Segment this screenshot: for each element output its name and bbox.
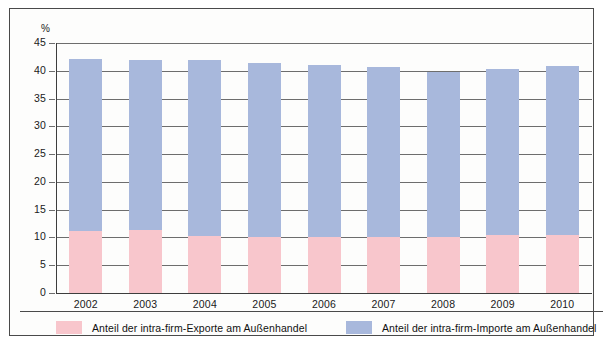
bar-segment-exports-2007 [367,237,400,293]
legend-swatch-imports [346,321,372,334]
x-axis-label-2005: 2005 [234,298,294,310]
bar-2005 [248,63,281,293]
bar-segment-imports-2005 [248,63,281,237]
legend-label-imports: Anteil der intra-firm-Importe am Außenha… [382,322,597,334]
bar-segment-exports-2005 [248,237,281,293]
bar-segment-imports-2010 [546,66,579,235]
y-tick-mark-5 [49,265,55,266]
bar-segment-exports-2002 [69,231,102,293]
bar-segment-exports-2004 [188,236,221,293]
y-tick-mark-15 [49,210,55,211]
bar-segment-imports-2007 [367,67,400,237]
bar-2007 [367,67,400,293]
bar-2003 [129,60,162,293]
y-tick-mark-45 [49,43,55,44]
bar-segment-imports-2002 [69,59,102,231]
y-tick-label-30: 30 [16,119,46,131]
bar-segment-exports-2009 [486,235,519,293]
legend-label-exports: Anteil der intra-firm-Exporte am Außenha… [92,322,307,334]
chart-frame: % 051015202530354045 2002200320042005200… [9,8,594,336]
bar-2008 [427,72,460,293]
y-tick-label-25: 25 [16,147,46,159]
bar-segment-exports-2003 [129,230,162,293]
bar-segment-exports-2008 [427,237,460,293]
bar-2006 [308,65,341,293]
gridline-0 [56,293,592,294]
y-tick-mark-30 [49,126,55,127]
x-axis-label-2010: 2010 [532,298,592,310]
x-axis-label-2009: 2009 [473,298,533,310]
legend-item-exports: Anteil der intra-firm-Exporte am Außenha… [56,321,307,334]
y-tick-label-0: 0 [16,286,46,298]
bar-2010 [546,66,579,293]
bar-segment-imports-2006 [308,65,341,238]
y-tick-label-40: 40 [16,64,46,76]
chart-figure: % 051015202530354045 2002200320042005200… [0,0,603,344]
bar-segment-imports-2009 [486,69,519,235]
y-tick-label-35: 35 [16,92,46,104]
y-tick-mark-25 [49,154,55,155]
y-tick-mark-0 [49,293,55,294]
bar-segment-imports-2003 [129,60,162,230]
x-axis-label-2007: 2007 [354,298,414,310]
x-axis-label-2006: 2006 [294,298,354,310]
bar-2002 [69,59,102,293]
bars-layer [56,43,592,293]
y-tick-label-45: 45 [16,36,46,48]
x-axis-label-2003: 2003 [115,298,175,310]
bar-segment-exports-2010 [546,235,579,293]
y-tick-mark-40 [49,71,55,72]
bar-segment-exports-2006 [308,237,341,293]
bar-segment-imports-2008 [427,72,460,238]
x-axis-label-2008: 2008 [413,298,473,310]
y-axis-unit-label: % [41,23,50,34]
y-tick-label-10: 10 [16,230,46,242]
y-tick-mark-35 [49,99,55,100]
y-tick-label-20: 20 [16,175,46,187]
y-tick-label-15: 15 [16,203,46,215]
legend-item-imports: Anteil der intra-firm-Importe am Außenha… [346,321,597,334]
bar-segment-imports-2004 [188,60,221,236]
x-axis-label-2002: 2002 [56,298,116,310]
y-tick-mark-10 [49,237,55,238]
chart-legend: Anteil der intra-firm-Exporte am Außenha… [20,311,603,344]
y-tick-label-5: 5 [16,258,46,270]
bar-2009 [486,69,519,293]
legend-swatch-exports [56,321,82,334]
bar-2004 [188,60,221,293]
y-tick-mark-20 [49,182,55,183]
x-axis-label-2004: 2004 [175,298,235,310]
